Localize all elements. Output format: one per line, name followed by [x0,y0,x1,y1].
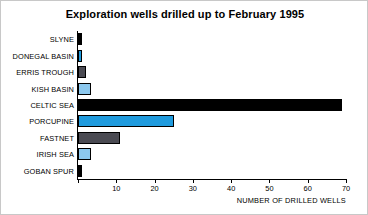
bar-row: KISH BASIN [78,80,346,96]
x-tick-mark [78,179,79,183]
chart-title: Exploration wells drilled up to February… [1,8,368,20]
x-tick-mark [155,179,156,183]
category-label-fastnet: FASTNET [40,133,74,142]
bar-kish-basin [78,83,91,95]
category-label-slyne: SLYNE [50,35,74,44]
chart-figure: Exploration wells drilled up to February… [0,0,368,215]
bar-erris-trough [78,66,86,78]
bar-celtic-sea [78,99,342,111]
x-tick-mark [269,179,270,183]
bar-row: FASTNET [78,130,346,146]
x-tick-label: 60 [304,184,312,193]
x-tick-mark [346,179,347,183]
category-label-goban-spur: GOBAN SPUR [24,166,74,175]
x-tick-label: 40 [227,184,235,193]
bar-porcupine [78,115,174,127]
x-tick-label: 50 [265,184,273,193]
x-tick-label: 30 [189,184,197,193]
bar-row: CELTIC SEA [78,97,346,113]
x-tick-label: 20 [150,184,158,193]
x-axis-line [77,179,347,180]
x-tick-mark [308,179,309,183]
bar-fastnet [78,132,120,144]
x-tick-label: 10 [112,184,120,193]
category-label-donegal-basin: DONEGAL BASIN [13,51,74,60]
bar-row: GOBAN SPUR [78,163,346,179]
x-tick-label: 70 [342,184,350,193]
category-label-kish-basin: KISH BASIN [32,84,74,93]
bar-slyne [78,33,82,45]
plot-area: SLYNEDONEGAL BASINERRIS TROUGHKISH BASIN… [78,31,346,179]
category-label-irish-sea: IRISH SEA [37,150,74,159]
bar-donegal-basin [78,50,82,62]
bar-row: PORCUPINE [78,113,346,129]
category-label-erris-trough: ERRIS TROUGH [16,68,74,77]
bar-row: DONEGAL BASIN [78,47,346,63]
bar-row: IRISH SEA [78,146,346,162]
x-tick-mark [231,179,232,183]
x-tick-mark [193,179,194,183]
x-axis-title: NUMBER OF DRILLED WELLS [237,196,346,205]
bar-row: ERRIS TROUGH [78,64,346,80]
x-tick-mark [116,179,117,183]
category-label-celtic-sea: CELTIC SEA [30,100,74,109]
bar-irish-sea [78,148,91,160]
bar-goban-spur [78,165,82,177]
bar-row: SLYNE [78,31,346,47]
category-label-porcupine: PORCUPINE [29,117,74,126]
